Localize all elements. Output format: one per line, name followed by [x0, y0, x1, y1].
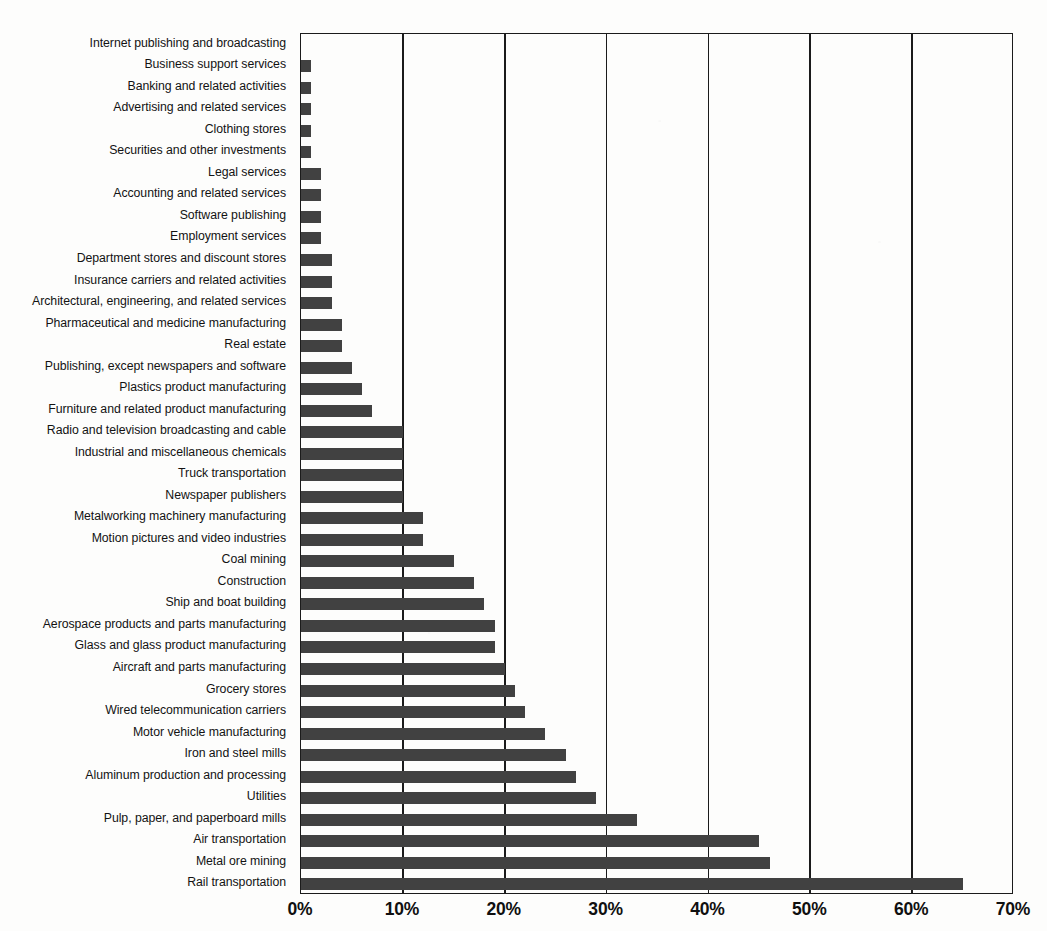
category-label: Metalworking machinery manufacturing: [0, 510, 292, 523]
category-label: Iron and steel mills: [0, 747, 292, 760]
category-label: Aluminum production and processing: [0, 769, 292, 782]
category-label: Department stores and discount stores: [0, 252, 292, 265]
category-axis-labels: Internet publishing and broadcastingBusi…: [0, 33, 292, 894]
bar: [301, 792, 596, 804]
category-label: Advertising and related services: [0, 101, 292, 114]
category-label: Publishing, except newspapers and softwa…: [0, 360, 292, 373]
bar: [301, 469, 403, 481]
gridline-30%: [606, 34, 608, 893]
value-axis-labels: 0%10%20%30%40%50%60%70%: [0, 899, 1047, 931]
bar: [301, 835, 759, 847]
bar: [301, 749, 566, 761]
bar: [301, 491, 403, 503]
gridline-40%: [708, 34, 710, 893]
category-label: Utilities: [0, 790, 292, 803]
bar: [301, 276, 332, 288]
category-label: Grocery stores: [0, 683, 292, 696]
category-label: Wired telecommunication carriers: [0, 704, 292, 717]
x-tick-label: 50%: [792, 899, 826, 920]
x-tick-label: 30%: [588, 899, 622, 920]
category-label: Newspaper publishers: [0, 489, 292, 502]
category-label: Coal mining: [0, 553, 292, 566]
bar: [301, 706, 525, 718]
category-label: Metal ore mining: [0, 855, 292, 868]
bar: [301, 125, 311, 137]
bar: [301, 555, 454, 567]
bar: [301, 254, 332, 266]
bar: [301, 857, 770, 869]
category-label: Radio and television broadcasting and ca…: [0, 424, 292, 437]
bar: [301, 103, 311, 115]
bar: [301, 577, 474, 589]
bar: [301, 82, 311, 94]
x-tick-label: 0%: [288, 899, 313, 920]
bar: [301, 620, 495, 632]
category-label: Construction: [0, 575, 292, 588]
gridline-50%: [809, 34, 811, 893]
bar: [301, 211, 321, 223]
category-label: Securities and other investments: [0, 144, 292, 157]
bar: [301, 448, 403, 460]
category-label: Architectural, engineering, and related …: [0, 295, 292, 308]
category-label: Aerospace products and parts manufacturi…: [0, 618, 292, 631]
bar: [301, 232, 321, 244]
bar: [301, 319, 342, 331]
bar: [301, 405, 372, 417]
bar: [301, 641, 495, 653]
bar: [301, 168, 321, 180]
x-tick-label: 10%: [385, 899, 419, 920]
bar: [301, 297, 332, 309]
bar: [301, 340, 342, 352]
category-label: Banking and related activities: [0, 80, 292, 93]
category-label: Real estate: [0, 338, 292, 351]
x-tick-label: 70%: [996, 899, 1030, 920]
bar: [301, 426, 403, 438]
category-label: Ship and boat building: [0, 596, 292, 609]
category-label: Business support services: [0, 58, 292, 71]
bar: [301, 146, 311, 158]
bar: [301, 814, 637, 826]
category-label: Furniture and related product manufactur…: [0, 403, 292, 416]
category-label: Pulp, paper, and paperboard mills: [0, 812, 292, 825]
gridline-60%: [911, 34, 913, 893]
category-label: Pharmaceutical and medicine manufacturin…: [0, 317, 292, 330]
x-tick-label: 40%: [690, 899, 724, 920]
category-label: Employment services: [0, 230, 292, 243]
bar: [301, 878, 963, 890]
bar: [301, 598, 484, 610]
category-label: Motion pictures and video industries: [0, 532, 292, 545]
bar: [301, 771, 576, 783]
bar: [301, 685, 515, 697]
bar: [301, 512, 423, 524]
category-label: Insurance carriers and related activitie…: [0, 274, 292, 287]
category-label: Legal services: [0, 166, 292, 179]
bar: [301, 728, 545, 740]
category-label: Air transportation: [0, 833, 292, 846]
bar: [301, 60, 311, 72]
x-tick-label: 60%: [894, 899, 928, 920]
gridline-20%: [504, 34, 506, 893]
category-label: Truck transportation: [0, 467, 292, 480]
category-label: Industrial and miscellaneous chemicals: [0, 446, 292, 459]
category-label: Software publishing: [0, 209, 292, 222]
category-label: Clothing stores: [0, 123, 292, 136]
category-label: Accounting and related services: [0, 187, 292, 200]
bar-chart: Internet publishing and broadcastingBusi…: [0, 0, 1047, 931]
category-label: Rail transportation: [0, 876, 292, 889]
bar: [301, 663, 505, 675]
category-label: Motor vehicle manufacturing: [0, 726, 292, 739]
bar: [301, 534, 423, 546]
category-label: Internet publishing and broadcasting: [0, 37, 292, 50]
category-label: Plastics product manufacturing: [0, 381, 292, 394]
category-label: Glass and glass product manufacturing: [0, 639, 292, 652]
bar: [301, 383, 362, 395]
gridline-10%: [402, 34, 404, 893]
bar: [301, 362, 352, 374]
x-tick-label: 20%: [486, 899, 520, 920]
plot-area: [300, 33, 1013, 894]
bar: [301, 189, 321, 201]
category-label: Aircraft and parts manufacturing: [0, 661, 292, 674]
